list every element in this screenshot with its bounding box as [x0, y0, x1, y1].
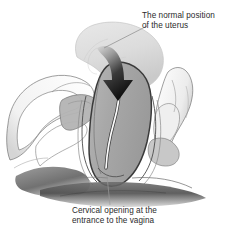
label-cervical-opening: Cervical opening at the entrance to the …: [72, 206, 157, 227]
uterine-prolapse-illustration: [0, 0, 239, 228]
label-normal-position-of-uterus: The normal position of the uterus: [142, 11, 215, 32]
